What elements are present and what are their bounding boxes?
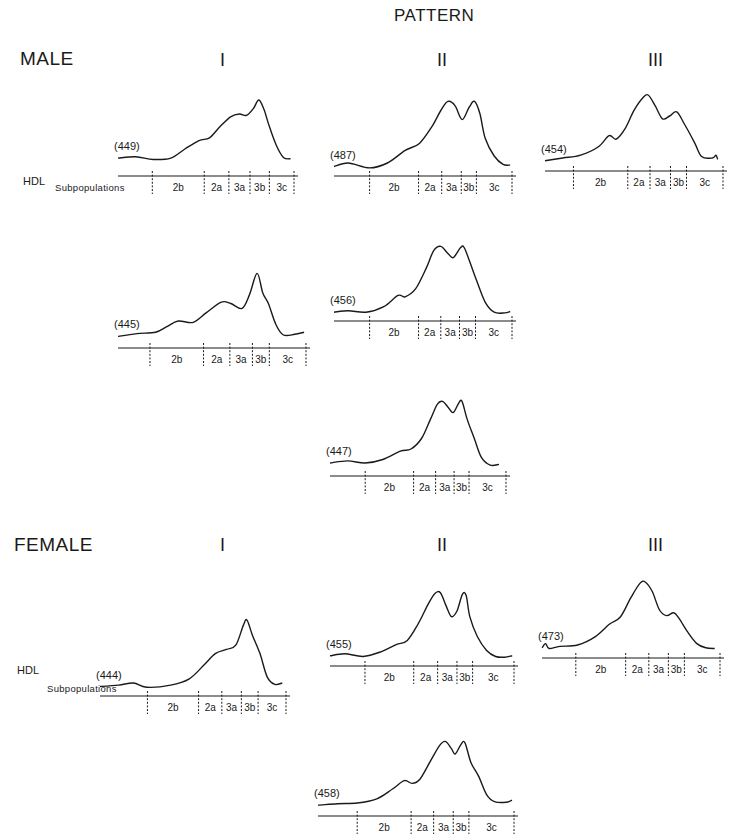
region-label-2b: 2b xyxy=(384,672,396,683)
scan-panel-male-II-447: 2b2a3a3b3c(447) xyxy=(330,390,516,502)
scan-panel-male-II-456: 2b2a3a3b3c(456) xyxy=(334,235,522,347)
scan-panel-male-I-445: 2b2a3a3b3c(445) xyxy=(118,262,316,374)
scan-curve xyxy=(118,100,291,160)
region-label-3a: 3a xyxy=(438,822,450,833)
scan-panel-female-II-455: 2b2a3a3b3c(455) xyxy=(330,580,524,692)
region-label-3c: 3c xyxy=(486,822,497,833)
scan-panel-female-III-473: 2b2a3a3b3c(473) xyxy=(542,572,730,684)
scan-curve xyxy=(334,246,510,313)
scan-curve xyxy=(545,94,718,160)
region-label-2b: 2b xyxy=(595,177,607,188)
subpopulations-axis-label-male: Subpopulations xyxy=(55,182,125,193)
region-label-3a: 3a xyxy=(446,182,458,193)
column-label-II-female: II xyxy=(437,535,447,556)
region-label-3c: 3c xyxy=(267,702,278,713)
region-label-3b: 3b xyxy=(462,327,474,338)
scan-curve xyxy=(100,620,282,688)
scan-curve xyxy=(334,101,510,168)
region-label-3c: 3c xyxy=(276,182,287,193)
sample-id-label: (445) xyxy=(114,318,140,330)
region-label-2a: 2a xyxy=(211,182,223,193)
column-label-II-male: II xyxy=(437,50,447,71)
region-label-3b: 3b xyxy=(456,822,468,833)
pattern-header: PATTERN xyxy=(394,6,474,26)
region-label-2a: 2a xyxy=(425,182,437,193)
sample-id-label: (487) xyxy=(330,149,356,161)
region-label-3c: 3c xyxy=(482,482,493,493)
group-label-female: FEMALE xyxy=(14,534,93,556)
region-label-3b: 3b xyxy=(673,177,685,188)
region-label-2b: 2b xyxy=(384,482,396,493)
region-label-3a: 3a xyxy=(236,354,248,365)
region-label-3a: 3a xyxy=(226,702,238,713)
region-label-2b: 2b xyxy=(389,182,401,193)
region-label-3b: 3b xyxy=(255,354,267,365)
region-label-3b: 3b xyxy=(456,482,468,493)
hdl-axis-label-female: HDL xyxy=(17,664,39,676)
region-label-3c: 3c xyxy=(699,177,710,188)
region-label-2b: 2b xyxy=(173,182,185,193)
region-label-2b: 2b xyxy=(595,664,607,675)
region-label-3b: 3b xyxy=(244,702,256,713)
region-label-2b: 2b xyxy=(167,702,179,713)
column-label-III-female: III xyxy=(648,535,663,556)
sample-id-label: (458) xyxy=(314,787,340,799)
column-label-I-male: I xyxy=(220,50,225,71)
scan-curve xyxy=(330,592,512,658)
region-label-3b: 3b xyxy=(459,672,471,683)
region-label-2a: 2a xyxy=(419,482,431,493)
scan-panel-female-II-458: 2b2a3a3b3c(458) xyxy=(318,730,524,840)
region-label-3a: 3a xyxy=(655,177,667,188)
scan-curve xyxy=(318,741,512,805)
region-label-2a: 2a xyxy=(205,702,217,713)
sample-id-label: (447) xyxy=(326,445,352,457)
region-label-3c: 3c xyxy=(488,672,499,683)
column-label-I-female: I xyxy=(220,535,225,556)
region-label-3b: 3b xyxy=(463,182,475,193)
scan-panel-female-I-444: 2b2a3a3b3c(444) xyxy=(100,610,296,722)
region-label-3a: 3a xyxy=(445,327,457,338)
scan-curve xyxy=(330,400,499,465)
region-label-3b: 3b xyxy=(671,664,683,675)
region-label-2a: 2a xyxy=(420,672,432,683)
region-label-2a: 2a xyxy=(632,664,644,675)
sample-id-label: (449) xyxy=(114,140,140,152)
scan-panel-male-II-487: 2b2a3a3b3c(487) xyxy=(334,90,522,202)
region-label-3c: 3c xyxy=(697,664,708,675)
scan-panel-male-III-454: 2b2a3a3b3c(454) xyxy=(545,85,733,197)
scan-panel-male-I-449: 2b2a3a3b3c(449) xyxy=(118,90,304,202)
region-label-3c: 3c xyxy=(282,354,293,365)
region-label-2a: 2a xyxy=(417,822,429,833)
sample-id-label: (454) xyxy=(541,143,567,155)
sample-id-label: (444) xyxy=(96,669,122,681)
region-label-2a: 2a xyxy=(211,354,223,365)
sample-id-label: (455) xyxy=(326,638,352,650)
group-label-male: MALE xyxy=(20,48,74,70)
region-label-2b: 2b xyxy=(389,327,401,338)
region-label-2a: 2a xyxy=(424,327,436,338)
region-label-3b: 3b xyxy=(254,182,266,193)
region-label-3c: 3c xyxy=(488,327,499,338)
sample-id-label: (456) xyxy=(330,294,356,306)
region-label-2b: 2b xyxy=(379,822,391,833)
scan-curve xyxy=(542,581,715,648)
region-label-3a: 3a xyxy=(653,664,665,675)
scan-curve xyxy=(118,273,304,336)
hdl-axis-label-male: HDL xyxy=(23,175,45,187)
region-label-2b: 2b xyxy=(171,354,183,365)
region-label-3a: 3a xyxy=(442,672,454,683)
region-label-3a: 3a xyxy=(439,482,451,493)
region-label-3a: 3a xyxy=(234,182,246,193)
sample-id-label: (473) xyxy=(538,630,564,642)
column-label-III-male: III xyxy=(648,50,663,71)
region-label-3c: 3c xyxy=(489,182,500,193)
region-label-2a: 2a xyxy=(633,177,645,188)
